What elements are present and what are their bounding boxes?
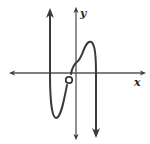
y-axis-label: y <box>79 7 88 20</box>
x-axis-label: x <box>133 76 141 89</box>
hole-open-circle-icon <box>66 77 73 84</box>
function-graph: y x <box>0 0 150 144</box>
